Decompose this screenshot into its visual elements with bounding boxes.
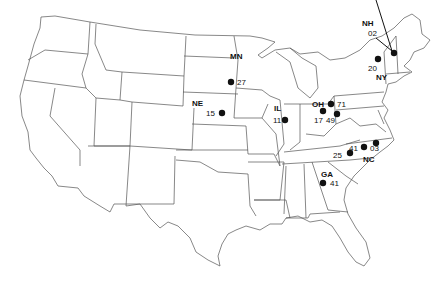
- state-label-mn: MN: [230, 52, 243, 61]
- site-marker[interactable]: [375, 56, 381, 62]
- leader-line: [376, 0, 392, 51]
- marker-group-il: IL 11: [273, 104, 288, 125]
- state-label-oh: OH: [312, 100, 324, 109]
- site-number: 41: [330, 179, 339, 188]
- site-marker[interactable]: [391, 50, 397, 56]
- site-number: 27: [237, 78, 246, 87]
- marker-group-nh: NH 02: [362, 0, 397, 56]
- site-marker[interactable]: [361, 144, 367, 150]
- marker-group-ne: NE 15: [192, 99, 225, 118]
- site-number: 17: [314, 116, 323, 125]
- state-label-ne: NE: [192, 99, 204, 108]
- marker-group-ga: GA 41: [320, 170, 340, 188]
- site-number: 03: [370, 144, 379, 153]
- marker-group-oh: OH 71 17 49: [312, 100, 346, 125]
- site-marker[interactable]: [328, 101, 334, 107]
- state-label-nc: NC: [363, 155, 375, 164]
- site-number: 11: [273, 116, 282, 125]
- state-label-ga: GA: [321, 170, 333, 179]
- site-marker[interactable]: [320, 108, 326, 114]
- state-borders: [24, 22, 410, 218]
- us-outline: [20, 14, 430, 266]
- site-marker[interactable]: [219, 110, 225, 116]
- site-marker[interactable]: [228, 79, 234, 85]
- site-number: 25: [333, 151, 342, 160]
- site-marker[interactable]: [347, 150, 353, 156]
- site-number: 02: [368, 29, 377, 38]
- state-label-il: IL: [274, 104, 281, 113]
- site-number: 20: [368, 64, 377, 73]
- site-number: 71: [337, 100, 346, 109]
- state-label-nh: NH: [362, 19, 374, 28]
- site-marker[interactable]: [320, 180, 326, 186]
- site-marker[interactable]: [282, 117, 288, 123]
- us-map: MN 27 NE 15 IL 11 OH 71 17 49 NH 02 20 N…: [0, 0, 445, 281]
- site-number: 49: [326, 116, 335, 125]
- site-number: 15: [206, 109, 215, 118]
- state-label-ny: NY: [376, 73, 388, 82]
